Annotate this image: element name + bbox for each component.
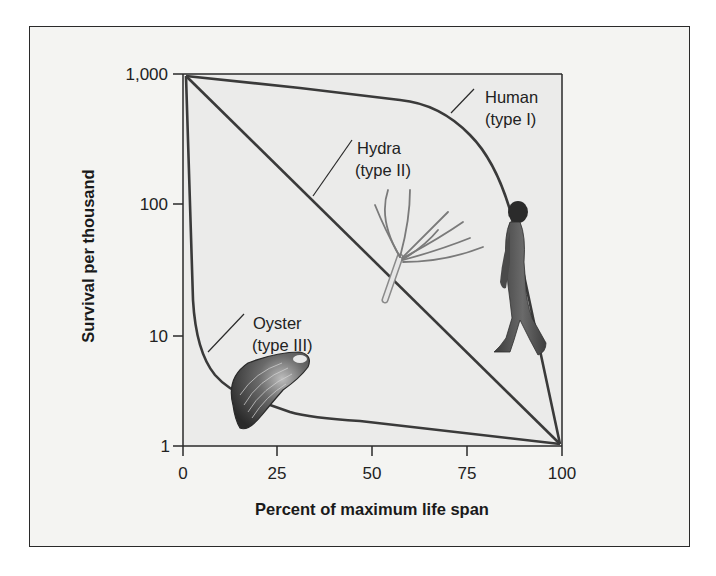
label-oyster: Oyster (253, 314, 302, 332)
label-hydra: Hydra (357, 139, 402, 157)
x-tick-25: 25 (268, 464, 287, 483)
x-tick-100: 100 (548, 464, 576, 483)
y-tick-100: 100 (140, 195, 168, 214)
y-tick-10: 10 (149, 327, 168, 346)
x-tick-75: 75 (458, 464, 477, 483)
y-tick-labels: 1,000 100 10 1 (125, 65, 170, 456)
x-tick-labels: 0 25 50 75 100 (178, 464, 576, 483)
y-tick-1: 1 (161, 437, 170, 456)
x-axis-title: Percent of maximum life span (255, 500, 489, 518)
x-tick-0: 0 (178, 464, 187, 483)
y-tick-1000: 1,000 (125, 65, 168, 84)
y-axis-title: Survival per thousand (79, 169, 97, 342)
label-human-type: (type I) (485, 110, 536, 128)
survivorship-chart: 1,000 100 10 1 0 25 50 75 100 Percent of… (0, 0, 716, 576)
label-hydra-type: (type II) (355, 161, 411, 179)
label-oyster-type: (type III) (252, 336, 313, 354)
label-human: Human (485, 88, 538, 106)
x-tick-50: 50 (363, 464, 382, 483)
